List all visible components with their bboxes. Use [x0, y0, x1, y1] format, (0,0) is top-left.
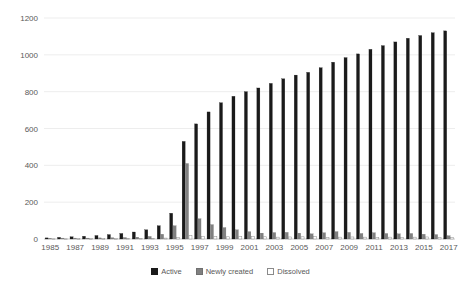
bar-dissolved-2010 [363, 237, 366, 239]
bar-dissolved-2000 [239, 236, 242, 239]
legend-item-newly-created[interactable]: Newly created [196, 267, 254, 276]
bar-newly-created-1988 [86, 238, 89, 239]
bar-dissolved-2001 [251, 236, 254, 239]
legend-item-active[interactable]: Active [151, 267, 181, 276]
bar-active-2006 [307, 72, 310, 239]
legend-swatch-newly-created-icon [196, 268, 203, 275]
bar-active-2008 [332, 62, 335, 239]
bar-dissolved-1994 [164, 238, 167, 239]
bar-newly-created-1987 [73, 238, 76, 239]
chart-plot-area: 0200400600800100012001985198719891991199… [0, 0, 461, 282]
bar-newly-created-2011 [372, 233, 375, 239]
bar-active-2001 [244, 92, 247, 239]
bar-newly-created-1999 [223, 228, 226, 239]
x-axis-tick-label: 2015 [415, 243, 433, 252]
bar-dissolved-2011 [376, 237, 379, 239]
bar-newly-created-2017 [447, 236, 450, 239]
bar-newly-created-2013 [397, 234, 400, 239]
x-axis-tick-label: 1995 [166, 243, 184, 252]
x-axis-tick-label: 2017 [440, 243, 458, 252]
bar-newly-created-2015 [422, 234, 425, 239]
bar-dissolved-1993 [152, 238, 155, 239]
bar-active-1987 [70, 237, 73, 239]
bar-chart: 0200400600800100012001985198719891991199… [0, 0, 461, 282]
x-axis-tick-label: 2013 [390, 243, 408, 252]
bar-dissolved-1996 [189, 235, 192, 239]
bar-active-1985 [45, 238, 48, 239]
bar-newly-created-2012 [385, 233, 388, 239]
x-axis-tick-label: 2011 [365, 243, 383, 252]
bar-active-1988 [82, 236, 85, 239]
bar-active-2000 [232, 96, 235, 239]
bar-newly-created-2007 [323, 233, 326, 239]
x-axis-tick-label: 1999 [216, 243, 234, 252]
bar-dissolved-1995 [176, 238, 179, 239]
bar-active-2005 [294, 75, 297, 239]
bar-active-1990 [107, 235, 110, 239]
bar-active-1986 [58, 237, 61, 239]
y-axis-tick-label: 800 [25, 88, 39, 97]
bar-active-2003 [269, 83, 272, 239]
bar-dissolved-2003 [276, 237, 279, 239]
bar-newly-created-2000 [235, 230, 238, 239]
bar-active-1999 [219, 103, 222, 239]
x-axis-tick-label: 1991 [116, 243, 134, 252]
bar-dissolved-1999 [226, 237, 229, 239]
bar-dissolved-2007 [326, 237, 329, 239]
bar-newly-created-1997 [198, 219, 201, 239]
bar-newly-created-2005 [298, 233, 301, 239]
bar-active-2014 [406, 38, 409, 239]
y-axis-tick-label: 200 [25, 198, 39, 207]
legend-label-active: Active [161, 267, 181, 276]
bar-dissolved-2013 [401, 238, 404, 239]
bar-dissolved-2016 [438, 237, 441, 239]
y-axis-tick-label: 0 [34, 235, 39, 244]
x-axis-tick-label: 2003 [266, 243, 284, 252]
bar-active-1989 [95, 236, 98, 240]
y-axis-tick-label: 1000 [20, 51, 38, 60]
bar-newly-created-2009 [347, 232, 350, 239]
bar-newly-created-1989 [98, 238, 101, 239]
bar-newly-created-1995 [173, 226, 176, 239]
bar-active-2013 [394, 42, 397, 239]
bar-active-2004 [282, 79, 285, 239]
bar-active-1997 [195, 124, 198, 239]
bar-dissolved-1989 [102, 239, 105, 240]
bar-newly-created-1991 [123, 238, 126, 239]
x-axis-tick-label: 2007 [315, 243, 333, 252]
x-axis-tick-label: 1989 [91, 243, 109, 252]
legend-label-newly-created: Newly created [206, 267, 254, 276]
bar-newly-created-2003 [273, 233, 276, 239]
x-axis-tick-label: 1993 [141, 243, 159, 252]
bar-dissolved-2008 [338, 237, 341, 239]
bar-dissolved-1986 [64, 239, 67, 240]
bar-dissolved-1998 [214, 237, 217, 239]
bar-active-2016 [431, 33, 434, 239]
bar-active-1998 [207, 112, 210, 239]
bar-newly-created-2006 [310, 234, 313, 239]
bar-active-2009 [344, 58, 347, 239]
legend-swatch-dissolved-icon [267, 268, 274, 275]
bar-newly-created-1990 [111, 238, 114, 239]
bar-newly-created-2014 [410, 233, 413, 239]
bar-dissolved-1987 [77, 239, 80, 240]
bar-active-1996 [182, 141, 185, 239]
bar-newly-created-1992 [136, 237, 139, 239]
bar-newly-created-2010 [360, 233, 363, 239]
bar-dissolved-2017 [450, 238, 453, 239]
bar-dissolved-2015 [426, 237, 429, 239]
bar-dissolved-1997 [201, 236, 204, 239]
bar-dissolved-1988 [89, 239, 92, 240]
x-axis-tick-label: 2005 [290, 243, 308, 252]
bar-active-2015 [419, 36, 422, 240]
bar-newly-created-2016 [435, 235, 438, 239]
bar-newly-created-1998 [210, 225, 213, 239]
y-axis-tick-label: 600 [25, 125, 39, 134]
y-axis-tick-label: 1200 [20, 14, 38, 23]
bar-dissolved-1990 [114, 239, 117, 240]
legend-item-dissolved[interactable]: Dissolved [267, 267, 310, 276]
bar-active-2010 [356, 54, 359, 239]
bar-dissolved-1991 [127, 238, 130, 239]
bar-dissolved-2002 [264, 237, 267, 239]
bar-active-2017 [444, 31, 447, 239]
